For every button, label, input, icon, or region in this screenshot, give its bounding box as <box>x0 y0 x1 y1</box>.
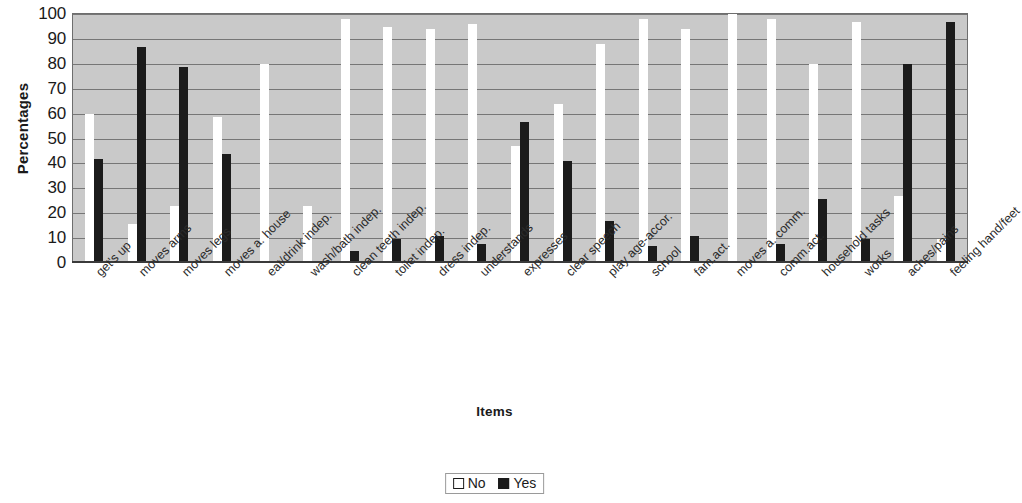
bar-yes <box>648 246 657 261</box>
y-axis-tick: 30 <box>22 179 66 196</box>
bar-no <box>341 19 350 261</box>
bar-no <box>85 114 94 261</box>
bar-no <box>894 196 903 261</box>
bar-yes <box>137 47 146 261</box>
bar-group <box>73 14 116 261</box>
bar-yes <box>690 236 699 261</box>
legend-label: Yes <box>514 476 537 490</box>
bar-yes <box>776 244 785 261</box>
bar-no <box>128 224 137 261</box>
bar-group <box>158 14 201 261</box>
bar-yes <box>563 161 572 261</box>
y-axis-tick: 10 <box>22 229 66 246</box>
legend-item-yes: Yes <box>499 476 537 490</box>
bar-no <box>852 22 861 261</box>
bar-yes <box>818 199 827 261</box>
bar-group <box>456 14 499 261</box>
y-axis-tick: 50 <box>22 130 66 147</box>
bar-yes <box>477 244 486 261</box>
bar-no <box>639 19 648 261</box>
x-axis-title: Items <box>0 404 989 419</box>
bar-group <box>584 14 627 261</box>
y-axis-tick: 40 <box>22 154 66 171</box>
x-axis-tick-labels: get's upmoves armsmoves legsmoves a. hou… <box>72 264 968 394</box>
bar-no <box>767 19 776 261</box>
bar-group <box>201 14 244 261</box>
bar-group <box>669 14 712 261</box>
legend-swatch-no-icon <box>453 478 464 489</box>
bar-no <box>681 29 690 261</box>
bar-group <box>925 14 968 261</box>
bar-yes <box>903 64 912 261</box>
y-axis-tick: 90 <box>22 30 66 47</box>
bar-group <box>414 14 457 261</box>
bar-group <box>882 14 925 261</box>
bar-group <box>712 14 755 261</box>
legend-swatch-yes-icon <box>499 478 510 489</box>
bar-group <box>797 14 840 261</box>
bar-group <box>541 14 584 261</box>
y-axis-tick: 80 <box>22 55 66 72</box>
y-axis-tick: 60 <box>22 105 66 122</box>
bar-group <box>499 14 542 261</box>
y-axis-tick: 0 <box>22 254 66 271</box>
legend-item-no: No <box>453 476 486 490</box>
y-axis-tick: 20 <box>22 204 66 221</box>
y-axis-tick: 70 <box>22 80 66 97</box>
legend-label: No <box>468 476 486 490</box>
bar-no <box>728 13 737 261</box>
y-axis-tick: 100 <box>22 5 66 22</box>
bar-groups <box>73 14 967 261</box>
y-axis-tick-labels: 1009080706050403020100 <box>22 0 66 270</box>
chart-legend: NoYes <box>445 473 545 494</box>
bar-no <box>468 24 477 261</box>
bar-group <box>116 14 159 261</box>
bar-yes <box>94 159 103 261</box>
